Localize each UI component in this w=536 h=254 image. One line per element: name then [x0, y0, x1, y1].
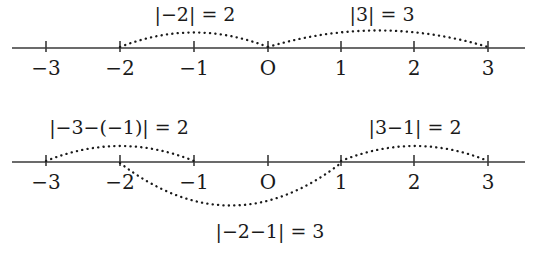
expr-label-abs-3: |3| = 3 [350, 5, 415, 24]
tick-label-top-3: 3 [458, 58, 518, 78]
tick-label-top-1: 1 [311, 58, 371, 78]
tick-label-bottom-neg2: −2 [90, 172, 150, 192]
tick-label-top-neg3: −3 [16, 58, 76, 78]
expr-label-abs-3-minus-1: |3−1| = 2 [369, 118, 462, 137]
expr-label-abs-neg2: |−2| = 2 [155, 5, 236, 24]
arc-0-to-3 [268, 31, 488, 48]
tick-label-top-zero: O [238, 58, 298, 78]
tick-label-bottom-2: 2 [384, 172, 444, 192]
tick-label-bottom-zero: O [238, 172, 298, 192]
tick-label-bottom-neg3: −3 [16, 172, 76, 192]
number-line-top-group [12, 31, 525, 53]
tick-label-top-2: 2 [384, 58, 444, 78]
tick-label-bottom-neg1: −1 [164, 172, 224, 192]
tick-label-bottom-1: 1 [311, 172, 371, 192]
expr-label-abs-neg3-minus-neg1: |−3−(−1)| = 2 [49, 118, 189, 137]
absolute-value-number-line-figure: −3 −2 −1 O 1 2 3 |−2| = 2 |3| = 3 −3 −2 … [0, 0, 536, 254]
expr-label-abs-neg2-minus-1: |−2−1| = 3 [216, 222, 325, 241]
tick-label-top-neg2: −2 [90, 58, 150, 78]
tick-label-bottom-3: 3 [458, 172, 518, 192]
arc-neg2-to-1 [120, 163, 341, 206]
tick-label-top-neg1: −1 [164, 58, 224, 78]
